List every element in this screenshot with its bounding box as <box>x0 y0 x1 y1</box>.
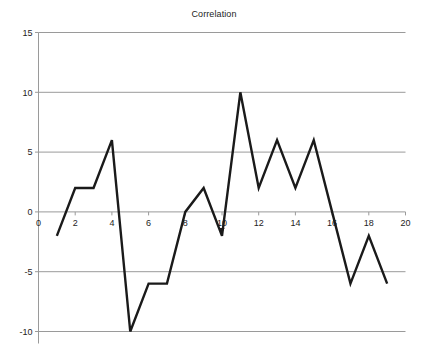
y-tick-label: 5 <box>27 147 32 157</box>
x-tick-label: 6 <box>146 218 151 228</box>
y-tick-labels: -10-5051015 <box>19 28 38 337</box>
x-tick-label: 14 <box>290 218 300 228</box>
x-tick-label: 4 <box>109 218 114 228</box>
y-tick-label: 15 <box>22 28 32 38</box>
x-tick-label: 20 <box>400 218 410 228</box>
x-tick-label: 2 <box>73 218 78 228</box>
y-tick-label: -5 <box>24 267 32 277</box>
x-tick-label: 0 <box>36 218 41 228</box>
y-tick-label: 10 <box>22 88 32 98</box>
y-tick-label: -10 <box>19 327 32 337</box>
y-tick-label: 0 <box>27 207 32 217</box>
chart-plot-area: -10-5051015 02468101214161820 <box>0 0 428 347</box>
x-tick-label: 18 <box>364 218 374 228</box>
x-tick-label: 12 <box>254 218 264 228</box>
x-axis-ticks <box>75 212 405 216</box>
correlation-line-chart: Correlation -10-5051015 0246810121416182… <box>0 0 428 347</box>
